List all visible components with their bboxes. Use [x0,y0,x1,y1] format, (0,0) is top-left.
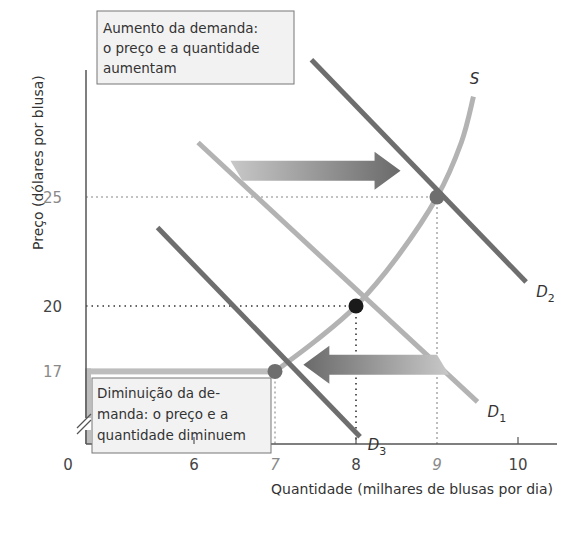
curve-label-main: D [368,436,380,454]
curve-label-s: S [470,70,480,88]
curve-labels: SD1D2D3 [368,70,555,458]
x-tick-label: 10 [508,456,527,474]
x-tick-label: 9 [432,456,442,474]
decrease-annotation-box: Diminuição da de- manda: o preço e a qua… [92,378,271,453]
decrease-box-line-1: Diminuição da de- [97,385,220,401]
decrease-box-line-3: quantidade diminuem [97,427,246,443]
increase-box-line-2: o preço e a quantidade [103,40,260,56]
curve-label-d1: D1 [488,403,507,425]
curve-label-d2: D2 [536,283,555,305]
y-axis-title: Preço (dólares por blusa) [30,75,46,250]
curve-label-subscript: 1 [499,412,506,425]
curve-label-subscript: 3 [379,445,386,458]
curve-label-d3: D3 [368,436,387,458]
equilibrium-point-increase [430,190,445,205]
curve-label-main: D [488,403,500,421]
increase-annotation-box: Aumento da demanda: o preço e a quantida… [97,11,294,84]
y-tick-label: 20 [43,298,62,316]
increase-box-line-1: Aumento da demanda: [103,20,258,36]
x-tick-label: 7 [270,456,280,474]
curve-label-main: S [470,70,480,88]
price-17-band [86,368,275,374]
curve-s [275,97,473,372]
demand-shift-chart: Aumento da demanda: o preço e a quantida… [0,0,582,547]
shift-left-arrow [303,346,449,384]
curve-label-main: D [536,283,548,301]
equilibrium-point-initial [349,299,364,314]
y-tick-label: 17 [43,363,62,381]
x-tick-label: 0 [63,456,73,474]
shift-right-arrow [230,152,400,190]
equilibrium-point-decrease [268,364,283,379]
decrease-box-line-2: manda: o preço e a [97,406,228,422]
shift-arrows [230,152,449,384]
x-tick-label: 8 [351,456,361,474]
curve-label-subscript: 2 [548,292,555,305]
x-tick-label: 6 [189,456,199,474]
x-axis-title: Quantidade (milhares de blusas por dia) [271,481,553,497]
increase-box-line-3: aumentam [103,60,177,76]
